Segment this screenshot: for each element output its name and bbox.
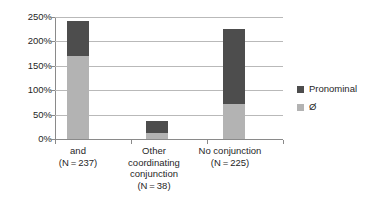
- gridline-baseline: [55, 139, 283, 140]
- bar-other-coordinating-conjunction[interactable]: [146, 121, 168, 139]
- x-axis-tick: [55, 140, 56, 144]
- gridline-200: [55, 41, 283, 42]
- x-axis-label-no-conjunction: No conjunction (N = 225): [178, 145, 282, 168]
- bar-no-conjunction[interactable]: [223, 29, 245, 139]
- legend-item-zero[interactable]: Ø: [297, 100, 375, 114]
- x-axis-tick: [207, 140, 208, 144]
- bar-segment-pronominal[interactable]: [223, 29, 245, 104]
- bar-segment-zero[interactable]: [67, 56, 89, 139]
- x-axis-label-line: conjunction: [102, 168, 206, 180]
- bar-segment-pronominal[interactable]: [146, 121, 168, 133]
- legend: Pronominal Ø: [297, 82, 375, 118]
- x-axis-label-line: (N = 38): [102, 180, 206, 192]
- bar-segment-zero[interactable]: [223, 104, 245, 139]
- legend-label: Pronominal: [309, 84, 357, 94]
- y-tick-label: 0%: [8, 134, 52, 144]
- y-tick-label: 150%: [8, 61, 52, 71]
- legend-swatch-icon: [297, 86, 304, 93]
- bar-segment-zero[interactable]: [146, 133, 168, 139]
- legend-swatch-icon: [297, 104, 304, 111]
- gridline-50: [55, 115, 283, 116]
- legend-label: Ø: [309, 102, 316, 112]
- y-tick-label: 250%: [8, 12, 52, 22]
- x-axis-tick: [131, 140, 132, 144]
- bar-and[interactable]: [67, 21, 89, 139]
- legend-item-pronominal[interactable]: Pronominal: [297, 82, 375, 96]
- plot-area: [55, 17, 283, 139]
- gridline-250: [55, 17, 283, 18]
- bar-segment-pronominal[interactable]: [67, 21, 89, 56]
- x-axis-label-line: No conjunction: [178, 145, 282, 157]
- y-tick-label: 200%: [8, 36, 52, 46]
- y-tick-label: 50%: [8, 110, 52, 120]
- x-axis-tick: [283, 140, 284, 144]
- y-axis-labels: 250% 200% 150% 100% 50% 0%: [8, 0, 52, 202]
- stacked-bar-chart: 250% 200% 150% 100% 50% 0%: [0, 0, 377, 202]
- gridline-100: [55, 90, 283, 91]
- y-tick-label: 100%: [8, 85, 52, 95]
- x-axis-label-line: (N = 225): [178, 157, 282, 169]
- gridline-150: [55, 66, 283, 67]
